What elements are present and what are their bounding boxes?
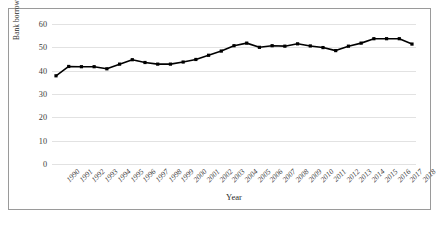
data-series-line	[52, 24, 416, 164]
y-tick-label: 20	[39, 113, 47, 122]
data-point	[207, 54, 210, 57]
data-point	[118, 63, 121, 66]
chart-figure: Bank borrowing to total borrowings (per …	[0, 0, 441, 226]
data-point	[182, 60, 185, 63]
data-point	[245, 42, 248, 45]
data-point	[410, 42, 413, 45]
data-point	[283, 45, 286, 48]
y-tick-label: 10	[39, 136, 47, 145]
plot-area: 0102030405060 19901991199219931994199519…	[52, 24, 416, 164]
data-point	[105, 67, 108, 70]
data-point	[93, 65, 96, 68]
x-axis-title: Year	[52, 192, 416, 202]
data-point-markers	[54, 37, 413, 77]
data-point	[258, 46, 261, 49]
gridline	[52, 164, 416, 165]
data-point	[296, 42, 299, 45]
data-point	[385, 37, 388, 40]
data-point	[232, 44, 235, 47]
y-tick-label: 50	[39, 43, 47, 52]
y-tick-label: 40	[39, 66, 47, 75]
data-point	[271, 44, 274, 47]
y-tick-label: 0	[43, 160, 47, 169]
data-point	[169, 63, 172, 66]
y-tick-label: 30	[39, 90, 47, 99]
data-point	[347, 45, 350, 48]
data-point	[67, 65, 70, 68]
data-point	[372, 37, 375, 40]
data-point	[334, 49, 337, 52]
data-point	[194, 58, 197, 61]
data-point	[80, 65, 83, 68]
data-point	[321, 46, 324, 49]
data-point	[220, 49, 223, 52]
data-point	[398, 37, 401, 40]
data-point	[54, 74, 57, 77]
data-point	[309, 44, 312, 47]
data-point	[360, 42, 363, 45]
data-point	[131, 58, 134, 61]
data-point	[143, 61, 146, 64]
y-axis-title: Bank borrowing to total borrowings (per …	[12, 0, 32, 50]
data-point	[156, 63, 159, 66]
y-tick-label: 60	[39, 20, 47, 29]
